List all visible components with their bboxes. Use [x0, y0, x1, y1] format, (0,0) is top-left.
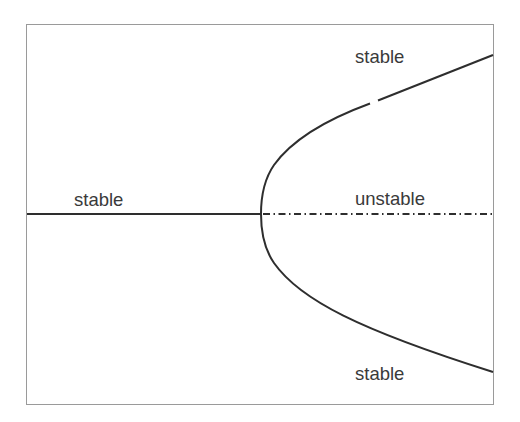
label-left-stable: stable	[74, 189, 123, 210]
bifurcation-diagram: stable stable unstable stable	[0, 0, 520, 422]
lower-stable-branch	[261, 214, 493, 372]
label-upper-stable: stable	[355, 46, 404, 67]
upper-stable-branch	[261, 104, 370, 215]
label-lower-stable: stable	[355, 363, 404, 384]
label-middle-unstable: unstable	[355, 188, 425, 209]
